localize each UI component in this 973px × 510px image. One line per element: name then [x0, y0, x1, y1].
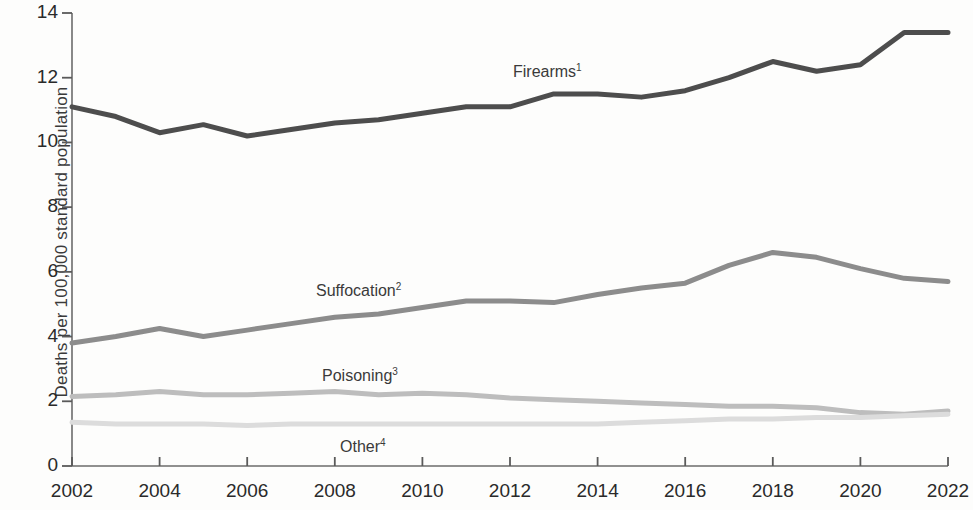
series-line-firearms: [72, 32, 948, 136]
data-lines: [72, 32, 948, 425]
series-line-suffocation: [72, 252, 948, 343]
series-line-other: [72, 414, 948, 425]
series-line-poisoning: [72, 392, 948, 415]
